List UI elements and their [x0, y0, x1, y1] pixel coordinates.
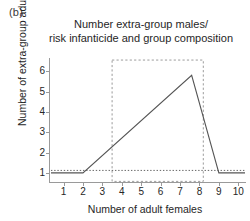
- x-tick-label: 7: [171, 186, 189, 197]
- x-axis-label: Number of adult females: [45, 203, 245, 215]
- y-tick-mark: [46, 132, 49, 133]
- y-tick-label: 4: [31, 106, 45, 117]
- x-tick-mark: [180, 183, 181, 186]
- x-tick-label: 6: [152, 186, 170, 197]
- chart-title-line-2: risk infanticide and group composition: [34, 32, 248, 46]
- x-tick-mark: [161, 183, 162, 186]
- chart-title-line-1: Number extra-group males/: [34, 18, 248, 32]
- x-tick-mark: [199, 183, 200, 186]
- y-tick-mark: [46, 153, 49, 154]
- x-tick-label: 2: [74, 186, 92, 197]
- x-tick-label: 8: [190, 186, 208, 197]
- x-axis-line: [49, 182, 246, 183]
- y-tick-label: 1: [31, 167, 45, 178]
- x-tick-mark: [102, 183, 103, 186]
- x-tick-mark: [219, 183, 220, 186]
- plot-svg: [50, 56, 246, 182]
- data-series-line: [51, 75, 245, 173]
- x-tick-label: 3: [93, 186, 111, 197]
- x-tick-label: 4: [113, 186, 131, 197]
- x-tick-mark: [64, 183, 65, 186]
- y-tick-label: 2: [31, 147, 45, 158]
- highlight-box: [112, 60, 203, 181]
- x-tick-mark: [141, 183, 142, 186]
- y-tick-label: 3: [31, 126, 45, 137]
- x-tick-label: 1: [55, 186, 73, 197]
- y-tick-mark: [46, 112, 49, 113]
- y-tick-mark: [46, 173, 49, 174]
- x-tick-mark: [238, 183, 239, 186]
- y-tick-label: 5: [31, 86, 45, 97]
- plot-area: [50, 56, 246, 182]
- x-tick-mark: [122, 183, 123, 186]
- x-tick-label: 5: [132, 186, 150, 197]
- y-tick-label: 6: [31, 65, 45, 76]
- x-tick-label: 9: [210, 186, 228, 197]
- y-tick-mark: [46, 92, 49, 93]
- y-axis-label: Number of extra-group adult males: [16, 0, 30, 126]
- x-tick-mark: [83, 183, 84, 186]
- x-tick-label: 10: [229, 186, 247, 197]
- y-tick-mark: [46, 71, 49, 72]
- chart-title: Number extra-group males/ risk infantici…: [34, 18, 248, 45]
